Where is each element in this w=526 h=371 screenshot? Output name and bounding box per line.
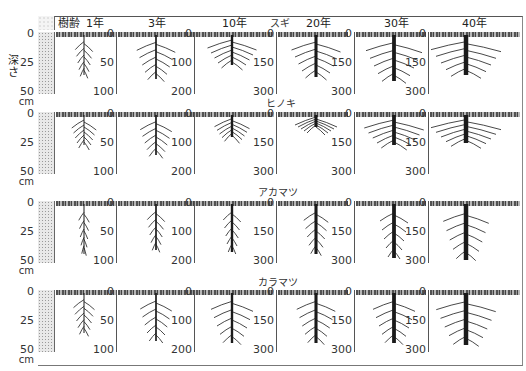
- root-system-sugi-4: [394, 35, 395, 36]
- tick-mid: 150: [324, 57, 352, 68]
- age-label-40: 40年: [462, 18, 487, 29]
- depth-axis-sugi-3: [276, 32, 277, 94]
- tick-bottom: 300: [324, 86, 352, 97]
- left-axis-unit: cm: [6, 176, 34, 187]
- root-system-sugi-1: [156, 35, 157, 36]
- root-system-akamatsu-1: [156, 204, 157, 205]
- root-system-hinoki-4: [394, 115, 395, 116]
- soil-column-karamatsu: [38, 290, 55, 352]
- tick-mid: 150: [398, 315, 426, 326]
- root-system-karamatsu-0: [84, 293, 85, 294]
- left-tick-25: 25: [6, 315, 34, 326]
- depth-axis-karamatsu-2: [194, 290, 195, 352]
- ground-surface: [430, 290, 520, 295]
- tick-bottom: 300: [398, 166, 426, 177]
- tick-top: 0: [164, 28, 192, 39]
- depth-axis-karamatsu-4: [354, 290, 355, 352]
- tick-top: 0: [86, 108, 114, 119]
- tick-mid: 150: [246, 226, 274, 237]
- tick-mid: 150: [398, 57, 426, 68]
- root-system-hinoki-2: [232, 115, 233, 116]
- root-system-hinoki-0: [84, 115, 85, 116]
- tick-top: 0: [246, 108, 274, 119]
- tick-top: 0: [164, 197, 192, 208]
- tick-bottom: 200: [164, 344, 192, 355]
- root-system-hinoki-3: [316, 115, 317, 116]
- left-tick-25: 25: [6, 137, 34, 148]
- soil-column-hinoki: [38, 112, 55, 174]
- tick-mid: 50: [86, 226, 114, 237]
- ground-surface: [430, 112, 520, 117]
- tick-bottom: 100: [86, 86, 114, 97]
- root-system-akamatsu-3: [316, 204, 317, 205]
- tick-top: 0: [398, 28, 426, 39]
- tick-mid: 100: [164, 137, 192, 148]
- tick-top: 0: [86, 28, 114, 39]
- depth-axis-sugi-5: [428, 32, 429, 94]
- tick-mid: 150: [246, 315, 274, 326]
- tick-top: 0: [324, 286, 352, 297]
- tick-top: 0: [324, 108, 352, 119]
- root-system-sugi-2: [232, 35, 233, 36]
- depth-axis-hinoki-3: [276, 112, 277, 174]
- tick-bottom: 300: [398, 255, 426, 266]
- tick-mid: 150: [324, 315, 352, 326]
- depth-axis-karamatsu-3: [276, 290, 277, 352]
- root-system-akamatsu-0: [84, 204, 85, 205]
- left-tick-0: 0: [6, 108, 34, 119]
- tick-mid: 150: [398, 226, 426, 237]
- tick-bottom: 300: [246, 86, 274, 97]
- tick-top: 0: [398, 108, 426, 119]
- tick-mid: 50: [86, 137, 114, 148]
- root-system-karamatsu-2: [232, 293, 233, 294]
- ground-surface: [430, 32, 520, 37]
- left-tick-25: 25: [6, 57, 34, 68]
- tick-mid: 100: [164, 315, 192, 326]
- tick-bottom: 300: [246, 166, 274, 177]
- tick-bottom: 100: [86, 255, 114, 266]
- tick-top: 0: [246, 197, 274, 208]
- tick-bottom: 100: [86, 344, 114, 355]
- tick-mid: 150: [246, 137, 274, 148]
- tick-bottom: 300: [246, 255, 274, 266]
- tick-top: 0: [86, 197, 114, 208]
- tick-top: 0: [324, 28, 352, 39]
- root-system-sugi-5: [466, 35, 467, 36]
- depth-axis-akamatsu-5: [428, 201, 429, 263]
- root-system-hinoki-5: [466, 115, 467, 116]
- left-axis-unit: cm: [6, 354, 34, 365]
- tick-top: 0: [86, 286, 114, 297]
- tick-bottom: 200: [164, 166, 192, 177]
- depth-axis-hinoki-2: [194, 112, 195, 174]
- ground-surface: [430, 201, 520, 206]
- age-header-label: 樹齢: [58, 18, 80, 29]
- tick-top: 0: [246, 286, 274, 297]
- tick-bottom: 200: [164, 86, 192, 97]
- left-tick-0: 0: [6, 197, 34, 208]
- left-axis-unit: cm: [6, 265, 34, 276]
- depth-axis-hinoki-5: [428, 112, 429, 174]
- root-system-sugi-0: [84, 35, 85, 36]
- depth-axis-sugi-4: [354, 32, 355, 94]
- tick-mid: 100: [164, 226, 192, 237]
- tick-mid: 150: [324, 226, 352, 237]
- root-system-sugi-3: [316, 35, 317, 36]
- depth-axis-hinoki-4: [354, 112, 355, 174]
- age-label-10: 10年: [222, 18, 247, 29]
- tick-bottom: 300: [324, 344, 352, 355]
- tick-bottom: 100: [86, 166, 114, 177]
- depth-axis-hinoki-1: [116, 112, 117, 174]
- depth-axis-akamatsu-1: [116, 201, 117, 263]
- root-system-akamatsu-4: [394, 204, 395, 205]
- tick-bottom: 300: [398, 86, 426, 97]
- depth-axis-akamatsu-4: [354, 201, 355, 263]
- depth-axis-akamatsu-3: [276, 201, 277, 263]
- root-system-karamatsu-3: [316, 293, 317, 294]
- tick-top: 0: [164, 108, 192, 119]
- left-axis-unit: cm: [6, 96, 34, 107]
- tick-mid: 150: [398, 137, 426, 148]
- left-tick-0: 0: [6, 286, 34, 297]
- tick-top: 0: [164, 286, 192, 297]
- tick-top: 0: [324, 197, 352, 208]
- left-tick-0: 0: [6, 28, 34, 39]
